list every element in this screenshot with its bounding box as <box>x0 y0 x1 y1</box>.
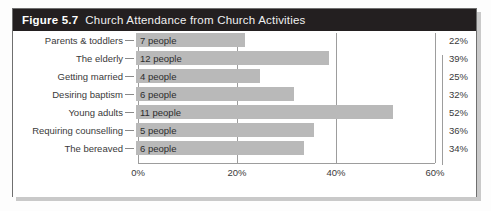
x-tick-label: 0% <box>131 167 145 178</box>
figure-container: Figure 5.7 Church Attendance from Church… <box>12 8 477 197</box>
chart-row: Desiring baptism6 people32% <box>13 85 476 103</box>
category-label: Getting married <box>13 71 125 82</box>
category-tick-icon <box>125 148 134 149</box>
x-tick-label: 60% <box>425 167 444 178</box>
category-label: Young adults <box>13 107 125 118</box>
bar-value-label: 5 people <box>136 125 176 136</box>
category-tick-icon <box>125 130 134 131</box>
bar-value-label: 6 people <box>136 143 176 154</box>
x-tick-label: 20% <box>227 167 246 178</box>
bar-track: 5 people <box>136 123 476 137</box>
bar: 6 people <box>136 141 304 155</box>
bar-track: 6 people <box>136 87 476 101</box>
category-tick-icon <box>125 40 134 41</box>
chart-bar-rows: Parents & toddlers7 people22%The elderly… <box>13 31 476 157</box>
bar: 4 people <box>136 69 260 83</box>
bar-track: 7 people <box>136 33 476 47</box>
percent-label: 34% <box>449 143 468 154</box>
figure-number: Figure 5.7 <box>22 14 78 26</box>
chart-plot-area: Parents & toddlers7 people22%The elderly… <box>13 31 476 197</box>
percent-label: 22% <box>449 35 468 46</box>
percent-label: 52% <box>449 107 468 118</box>
bar: 12 people <box>136 51 329 65</box>
bar-track: 4 people <box>136 69 476 83</box>
bar: 7 people <box>136 33 245 47</box>
percent-label: 32% <box>449 89 468 100</box>
bar-value-label: 7 people <box>136 35 176 46</box>
percent-label: 36% <box>449 125 468 136</box>
figure-caption-bar: Figure 5.7 Church Attendance from Church… <box>13 9 476 31</box>
category-tick-icon <box>125 112 134 113</box>
percent-label: 25% <box>449 71 468 82</box>
figure-screenshot: Figure 5.7 Church Attendance from Church… <box>0 0 491 211</box>
bar: 5 people <box>136 123 314 137</box>
x-tick-label: 40% <box>326 167 345 178</box>
bar-track: 11 people <box>136 105 476 119</box>
category-tick-icon <box>125 76 134 77</box>
chart-row: The elderly12 people39% <box>13 49 476 67</box>
chart-row: Requiring counselling5 people36% <box>13 121 476 139</box>
bar-track: 6 people <box>136 141 476 155</box>
bar: 11 people <box>136 105 393 119</box>
category-tick-icon <box>125 58 134 59</box>
chart-row: Young adults11 people52% <box>13 103 476 121</box>
chart-row: The bereaved6 people34% <box>13 139 476 157</box>
bar-value-label: 11 people <box>136 107 181 118</box>
category-tick-icon <box>125 94 134 95</box>
bar-value-label: 12 people <box>136 53 182 64</box>
category-label: The bereaved <box>13 143 125 154</box>
bar-value-label: 6 people <box>136 89 176 100</box>
chart-row: Getting married4 people25% <box>13 67 476 85</box>
bar-track: 12 people <box>136 51 476 65</box>
category-label: The elderly <box>13 53 125 64</box>
figure-title: Church Attendance from Church Activities <box>85 14 305 26</box>
category-label: Requiring counselling <box>13 125 125 136</box>
percent-label: 39% <box>449 53 468 64</box>
bar: 6 people <box>136 87 294 101</box>
category-label: Parents & toddlers <box>13 35 125 46</box>
chart-row: Parents & toddlers7 people22% <box>13 31 476 49</box>
x-axis-line <box>138 163 435 164</box>
bar-value-label: 4 people <box>136 71 176 82</box>
x-axis-tick-labels: 0%20%40%60% <box>13 167 476 183</box>
category-label: Desiring baptism <box>13 89 125 100</box>
